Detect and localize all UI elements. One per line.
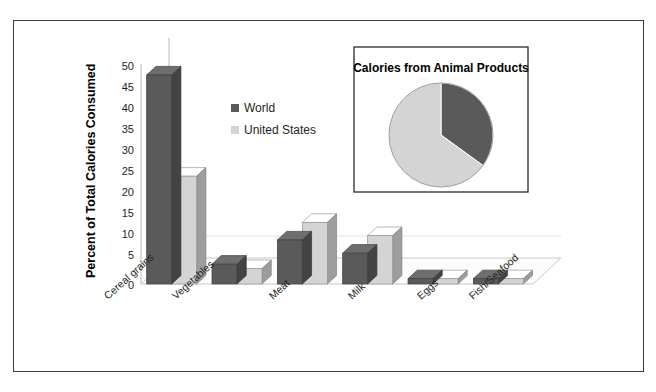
- y-tick-25: 25: [122, 165, 134, 177]
- y-tick-45: 45: [122, 81, 134, 93]
- legend-label-world: World: [244, 101, 275, 115]
- y-tick-35: 35: [122, 123, 134, 135]
- bar-vegetables-world: [212, 256, 246, 284]
- inset-pie-title: Calories from Animal Products: [353, 61, 529, 75]
- y-tick-15: 15: [122, 207, 134, 219]
- y-tick-50: 50: [122, 60, 134, 72]
- legend: World United States: [231, 101, 316, 137]
- y-tick-5: 5: [128, 249, 134, 261]
- pie-slices-group: [389, 83, 493, 187]
- y-tick-10: 10: [122, 228, 134, 240]
- y-tick-30: 30: [122, 144, 134, 156]
- bar-chart: Percent of Total Calories Consumed 50 45…: [0, 0, 656, 392]
- bar-milk-world: [343, 245, 377, 284]
- y-tick-40: 40: [122, 102, 134, 114]
- y-axis-title: Percent of Total Calories Consumed: [84, 64, 98, 278]
- y-axis-title-text: Percent of Total Calories Consumed: [84, 64, 98, 278]
- y-axis-ticks: 50 45 40 35 30 25 20 15 10 5 0: [122, 60, 134, 291]
- bar-cereal-grains-world: [147, 66, 181, 284]
- y-tick-20: 20: [122, 186, 134, 198]
- legend-label-united-states: United States: [244, 123, 316, 137]
- inset-pie-panel: Calories from Animal Products: [353, 47, 529, 192]
- bar-meat-world: [277, 231, 311, 284]
- figure-container: Percent of Total Calories Consumed 50 45…: [0, 0, 656, 392]
- legend-swatch-world: [231, 104, 239, 112]
- legend-swatch-united-states: [231, 126, 239, 134]
